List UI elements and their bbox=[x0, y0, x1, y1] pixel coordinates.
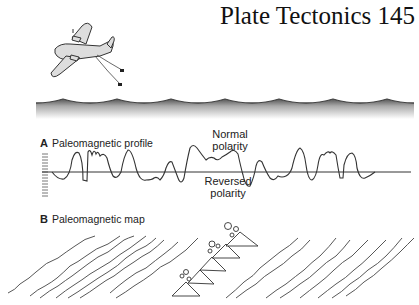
magnetic-stripes-left bbox=[8, 236, 198, 298]
panel-a-title: Paleomagnetic profile bbox=[52, 137, 153, 149]
normal-polarity-line1: Normal bbox=[200, 128, 260, 140]
panel-b-title: Paleomagnetic map bbox=[52, 213, 145, 225]
magnetometer-sensor-icon bbox=[118, 83, 122, 86]
panel-b-label: BPaleomagnetic map bbox=[40, 213, 145, 225]
normal-polarity-label: Normal polarity bbox=[200, 128, 260, 152]
magnetic-stripes-right bbox=[226, 238, 414, 298]
ocean-surface-icon bbox=[36, 99, 414, 119]
airplane-icon bbox=[51, 23, 114, 77]
magnetometer-sensor-icon bbox=[120, 69, 124, 72]
reversed-polarity-label: Reversed polarity bbox=[196, 175, 260, 199]
panel-a-label: APaleomagnetic profile bbox=[40, 137, 153, 149]
reversed-polarity-line2: polarity bbox=[196, 187, 260, 199]
figure-illustration bbox=[0, 0, 419, 305]
profile-scale-ticks bbox=[42, 154, 48, 196]
magnetometer-cable-icon bbox=[95, 55, 122, 84]
panel-b-letter: B bbox=[40, 213, 48, 225]
reversed-polarity-line1: Reversed bbox=[196, 175, 260, 187]
normal-polarity-line2: polarity bbox=[200, 140, 260, 152]
panel-a-letter: A bbox=[40, 137, 48, 149]
ridge-volcanoes-icon bbox=[172, 223, 258, 297]
